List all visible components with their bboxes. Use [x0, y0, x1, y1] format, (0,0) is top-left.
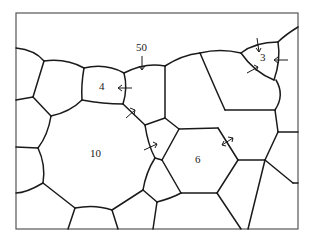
- grain-label-6: 6: [195, 154, 201, 165]
- grain-label-3: 3: [260, 52, 266, 63]
- grain-label-4: 4: [99, 81, 105, 92]
- grain-boundaries: [16, 27, 298, 229]
- grain-boundary-network: [0, 0, 313, 241]
- grain-diagram: 4 50 3 10 6: [0, 0, 313, 241]
- grain-label-10: 10: [90, 148, 101, 159]
- migration-label-50: 50: [136, 42, 147, 53]
